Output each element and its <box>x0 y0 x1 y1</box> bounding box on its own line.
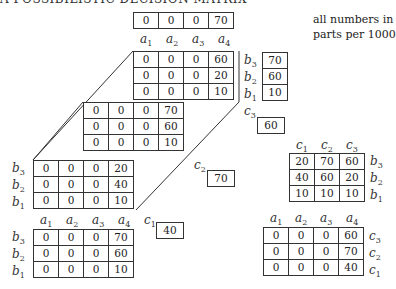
c2-label: c2 <box>194 159 206 176</box>
ac-projection-grid: 00060 00070 00040 <box>263 227 364 276</box>
a4-label: a4 <box>218 33 230 50</box>
b-max-column: 70 60 10 <box>262 52 288 101</box>
b2-label-ab: b2 <box>12 248 25 265</box>
b1-label-front: b1 <box>12 196 25 213</box>
b3-label-ab: b3 <box>12 231 25 248</box>
b3-label-front: b3 <box>12 162 25 179</box>
c1-face-grid: 00020 00040 00010 <box>33 160 134 209</box>
c1-label: c1 <box>144 214 156 231</box>
c3-max-box: 60 <box>257 117 285 134</box>
b3-label-top: b3 <box>244 54 257 71</box>
c2-max-box: 70 <box>207 170 235 187</box>
a1-label: a1 <box>140 33 152 50</box>
c3-label: c3 <box>244 105 256 122</box>
b2-label-cb: b2 <box>370 172 383 189</box>
a2-label: a2 <box>166 33 178 50</box>
cb-projection-grid: 207060 406020 101010 <box>289 153 365 202</box>
c2-face-grid: 00070 00060 00010 <box>83 102 184 151</box>
b1-label-top: b1 <box>244 88 257 105</box>
ab-projection-grid: 00070 00060 00010 <box>33 229 134 278</box>
c3-label-ac: c3 <box>369 230 381 247</box>
top-row-grid: 0 0 0 70 <box>133 12 234 29</box>
b2-label-top: b2 <box>244 71 257 88</box>
b1-label-ab: b1 <box>12 265 25 282</box>
c2-label-ac: c2 <box>369 247 381 264</box>
c1-max-box: 40 <box>156 222 184 239</box>
a3-label: a3 <box>192 33 204 50</box>
b2-label-front: b2 <box>12 179 25 196</box>
c3-face-grid: 00060 00020 00010 <box>133 51 234 100</box>
c1-label-ac: c1 <box>369 264 381 281</box>
b1-label-cb: b1 <box>370 189 383 206</box>
b3-label-cb: b3 <box>370 155 383 172</box>
